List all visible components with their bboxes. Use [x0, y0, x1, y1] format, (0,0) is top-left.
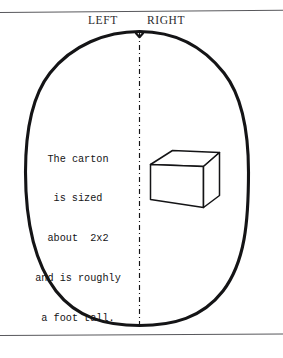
caption-line: and is roughly — [19, 272, 137, 285]
caption-line: about 2x2 — [19, 232, 137, 245]
carton-caption-text: The carton is sized about 2x2 and is rou… — [19, 126, 137, 352]
carton-box — [151, 151, 220, 208]
caption-line: The carton — [19, 153, 137, 166]
figure-page: LEFT RIGHT The carton is sized about 2x2… — [0, 0, 283, 358]
caption-line: a foot tall. — [19, 312, 137, 325]
caption-line: is sized — [19, 192, 137, 205]
carton-left-face — [151, 165, 204, 208]
